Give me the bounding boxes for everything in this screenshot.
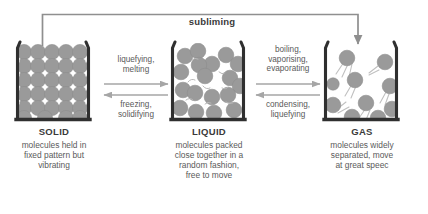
freezing-line-1: freezing, xyxy=(98,100,174,110)
freezing-line-2: solidifying xyxy=(98,110,174,120)
solid-desc-line-2: fixed pattern but xyxy=(0,150,108,160)
liquid-title: LIQUID xyxy=(153,127,265,138)
solid-description: molecules held in fixed pattern but vibr… xyxy=(0,140,108,171)
condensing-line-1: condensing, xyxy=(249,100,327,110)
melting-line-2: melting xyxy=(98,65,174,75)
gas-desc-line-2: separated, move xyxy=(306,150,418,160)
liquid-description: molecules packed close together in a ran… xyxy=(153,140,265,181)
liquid-particles xyxy=(172,43,248,121)
transition-label-condensing: condensing, liquefying xyxy=(249,100,327,119)
transition-label-freezing: freezing, solidifying xyxy=(98,100,174,119)
gas-caption: GAS molecules widely separated, move at … xyxy=(306,127,418,170)
transition-label-melting: liquefying, melting xyxy=(98,55,174,74)
liquid-desc-line-1: molecules packed xyxy=(153,140,265,150)
solid-container xyxy=(16,42,90,126)
liquid-desc-line-3: random fashion, xyxy=(153,160,265,170)
boiling-line-3: evaporating xyxy=(249,64,327,74)
gas-container xyxy=(324,42,400,126)
subliming-label: subliming xyxy=(152,17,272,28)
solid-caption: SOLID molecules held in fixed pattern bu… xyxy=(0,127,108,170)
liquid-caption: LIQUID molecules packed close together i… xyxy=(153,127,265,181)
condensing-line-2: liquefying xyxy=(249,110,327,120)
gas-desc-line-1: molecules widely xyxy=(306,140,418,150)
gas-description: molecules widely separated, move at grea… xyxy=(306,140,418,171)
boiling-line-2: vaporising, xyxy=(249,55,327,65)
gas-title: GAS xyxy=(306,127,418,138)
solid-desc-line-3: vibrating xyxy=(0,160,108,170)
solid-title: SOLID xyxy=(0,127,108,138)
boiling-line-1: boiling, xyxy=(249,45,327,55)
transition-label-boiling: boiling, vaporising, evaporating xyxy=(249,45,327,74)
liquid-gas-arrows xyxy=(256,84,320,95)
solid-liquid-arrows xyxy=(104,84,168,95)
states-of-matter-diagram: subliming liquefying, melting freezing, … xyxy=(0,0,428,214)
liquid-container xyxy=(171,42,248,121)
gas-desc-line-3: at great speec xyxy=(306,160,418,170)
solid-particles xyxy=(16,44,87,125)
liquid-desc-line-4: free to move xyxy=(153,170,265,180)
diagram-graphics xyxy=(0,0,428,214)
melting-line-1: liquefying, xyxy=(98,55,174,65)
solid-desc-line-1: molecules held in xyxy=(0,140,108,150)
liquid-desc-line-2: close together in a xyxy=(153,150,265,160)
gas-particles xyxy=(325,50,400,126)
